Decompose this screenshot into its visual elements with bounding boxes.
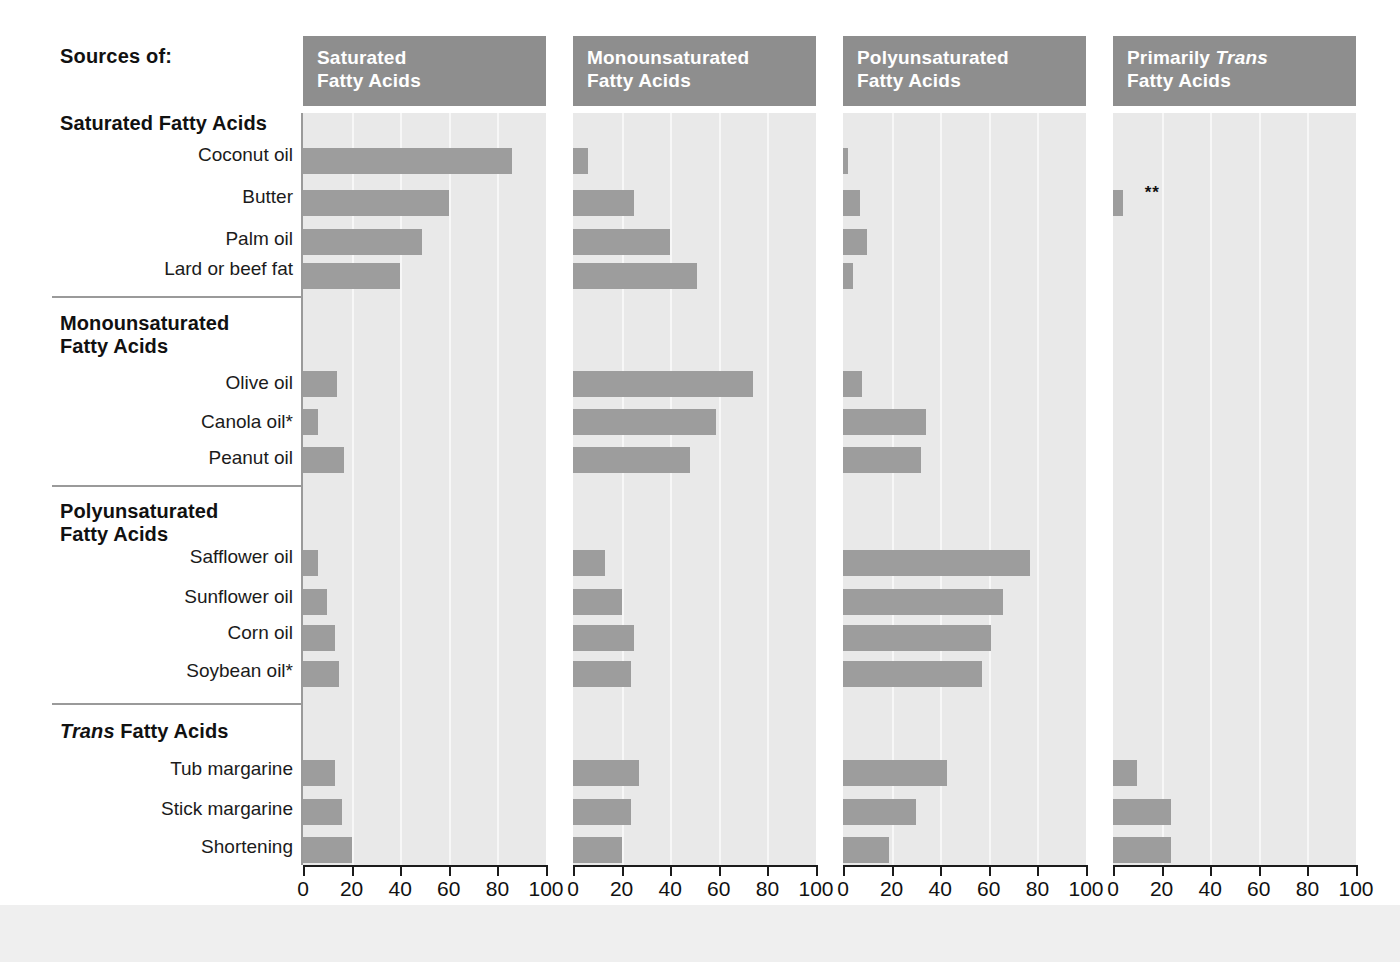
axis-tick-poly-20 bbox=[892, 865, 894, 876]
bar-sat-canola-oil bbox=[303, 409, 318, 435]
axis-tick-trans-40 bbox=[1210, 865, 1212, 876]
axis-tick-label-poly-20: 20 bbox=[872, 877, 912, 901]
panel-header-mono: MonounsaturatedFatty Acids bbox=[573, 36, 816, 106]
bar-poly-lard-or-beef-fat bbox=[843, 263, 853, 289]
row-label-olive-oil: Olive oil bbox=[225, 372, 293, 394]
bar-poly-olive-oil bbox=[843, 371, 862, 397]
axis-tick-sat-40 bbox=[400, 865, 402, 876]
row-label-palm-oil: Palm oil bbox=[225, 228, 293, 250]
chart-container: Sources of: Saturated Fatty Acids Coconu… bbox=[0, 0, 1400, 962]
panel-header-poly: PolyunsaturatedFatty Acids bbox=[843, 36, 1086, 106]
group-heading-polyunsaturated: Polyunsaturated Fatty Acids bbox=[60, 500, 218, 546]
page-title: Sources of: bbox=[60, 45, 172, 68]
group-divider-1 bbox=[52, 296, 303, 298]
axis-tick-label-sat-0: 0 bbox=[283, 877, 323, 901]
axis-tick-trans-100 bbox=[1356, 865, 1358, 876]
axis-tick-trans-80 bbox=[1307, 865, 1309, 876]
axis-tick-sat-20 bbox=[352, 865, 354, 876]
gridline-80 bbox=[1307, 113, 1309, 865]
axis-tick-trans-0 bbox=[1113, 865, 1115, 876]
row-label-tub-margarine: Tub margarine bbox=[170, 758, 293, 780]
bar-sat-olive-oil bbox=[303, 371, 337, 397]
axis-tick-label-sat-80: 80 bbox=[477, 877, 517, 901]
axis-tick-trans-20 bbox=[1162, 865, 1164, 876]
bar-mono-peanut-oil bbox=[573, 447, 690, 473]
row-label-canola-oil: Canola oil* bbox=[201, 411, 293, 433]
bar-poly-tub-margarine bbox=[843, 760, 947, 786]
bar-sat-palm-oil bbox=[303, 229, 422, 255]
axis-tick-sat-0 bbox=[303, 865, 305, 876]
row-label-lard-or-beef-fat: Lard or beef fat bbox=[164, 258, 293, 280]
axis-line-poly bbox=[843, 865, 1086, 867]
panel-header-trans: Primarily TransFatty Acids bbox=[1113, 36, 1356, 106]
bar-poly-soybean-oil bbox=[843, 661, 982, 687]
panel-header-line1: Monounsaturated bbox=[587, 47, 749, 68]
bar-mono-olive-oil bbox=[573, 371, 753, 397]
row-label-butter: Butter bbox=[242, 186, 293, 208]
axis-tick-poly-40 bbox=[940, 865, 942, 876]
axis-tick-label-mono-0: 0 bbox=[553, 877, 593, 901]
row-label-soybean-oil: Soybean oil* bbox=[186, 660, 293, 682]
axis-tick-label-mono-80: 80 bbox=[747, 877, 787, 901]
panel-header-italic-word: Trans bbox=[1216, 47, 1268, 68]
bar-poly-palm-oil bbox=[843, 229, 867, 255]
row-label-sunflower-oil: Sunflower oil bbox=[184, 586, 293, 608]
gridline-80 bbox=[767, 113, 769, 865]
bar-mono-coconut-oil bbox=[573, 148, 588, 174]
bar-mono-stick-margarine bbox=[573, 799, 631, 825]
gridline-40 bbox=[400, 113, 402, 865]
bar-mono-canola-oil bbox=[573, 409, 716, 435]
bar-sat-butter bbox=[303, 190, 449, 216]
bar-mono-palm-oil bbox=[573, 229, 670, 255]
bar-trans-tub-margarine bbox=[1113, 760, 1137, 786]
bar-sat-safflower-oil bbox=[303, 550, 318, 576]
gridline-40 bbox=[670, 113, 672, 865]
gridline-60 bbox=[719, 113, 721, 865]
axis-tick-sat-80 bbox=[497, 865, 499, 876]
axis-tick-poly-0 bbox=[843, 865, 845, 876]
bar-poly-peanut-oil bbox=[843, 447, 921, 473]
axis-tick-label-poly-80: 80 bbox=[1017, 877, 1057, 901]
axis-tick-mono-100 bbox=[816, 865, 818, 876]
bar-mono-sunflower-oil bbox=[573, 589, 622, 615]
axis-tick-mono-20 bbox=[622, 865, 624, 876]
group-divider-2 bbox=[52, 485, 303, 487]
axis-tick-label-trans-60: 60 bbox=[1239, 877, 1279, 901]
panel-header-line1: Saturated bbox=[317, 47, 406, 68]
axis-tick-label-mono-20: 20 bbox=[602, 877, 642, 901]
row-label-coconut-oil: Coconut oil bbox=[198, 144, 293, 166]
axis-tick-label-mono-40: 40 bbox=[650, 877, 690, 901]
footer-band bbox=[0, 905, 1400, 962]
bar-mono-shortening bbox=[573, 837, 622, 863]
bar-poly-sunflower-oil bbox=[843, 589, 1003, 615]
group-heading-saturated: Saturated Fatty Acids bbox=[60, 112, 267, 135]
bar-poly-canola-oil bbox=[843, 409, 926, 435]
bar-poly-safflower-oil bbox=[843, 550, 1030, 576]
bar-trans-stick-margarine bbox=[1113, 799, 1171, 825]
bar-sat-coconut-oil bbox=[303, 148, 512, 174]
group-heading-monounsaturated: Monounsaturated Fatty Acids bbox=[60, 312, 229, 358]
axis-tick-poly-80 bbox=[1037, 865, 1039, 876]
bar-trans-butter bbox=[1113, 190, 1123, 216]
panel-header-line1: Primarily bbox=[1127, 47, 1216, 68]
axis-line-trans bbox=[1113, 865, 1356, 867]
axis-tick-sat-100 bbox=[546, 865, 548, 876]
row-label-stick-margarine: Stick margarine bbox=[161, 798, 293, 820]
axis-tick-mono-40 bbox=[670, 865, 672, 876]
axis-tick-label-trans-80: 80 bbox=[1287, 877, 1327, 901]
axis-tick-label-mono-60: 60 bbox=[699, 877, 739, 901]
annotation-double-asterisk: ** bbox=[1145, 183, 1160, 203]
group-heading-trans-rest: Fatty Acids bbox=[115, 720, 229, 742]
bar-poly-shortening bbox=[843, 837, 889, 863]
panel-header-line2: Fatty Acids bbox=[857, 70, 961, 91]
gridline-60 bbox=[989, 113, 991, 865]
axis-tick-poly-100 bbox=[1086, 865, 1088, 876]
panel-header-sat: SaturatedFatty Acids bbox=[303, 36, 546, 106]
bar-sat-stick-margarine bbox=[303, 799, 342, 825]
gridline-20 bbox=[352, 113, 354, 865]
bar-sat-shortening bbox=[303, 837, 352, 863]
gridline-60 bbox=[449, 113, 451, 865]
bar-mono-lard-or-beef-fat bbox=[573, 263, 697, 289]
gridline-40 bbox=[940, 113, 942, 865]
bar-mono-corn-oil bbox=[573, 625, 634, 651]
